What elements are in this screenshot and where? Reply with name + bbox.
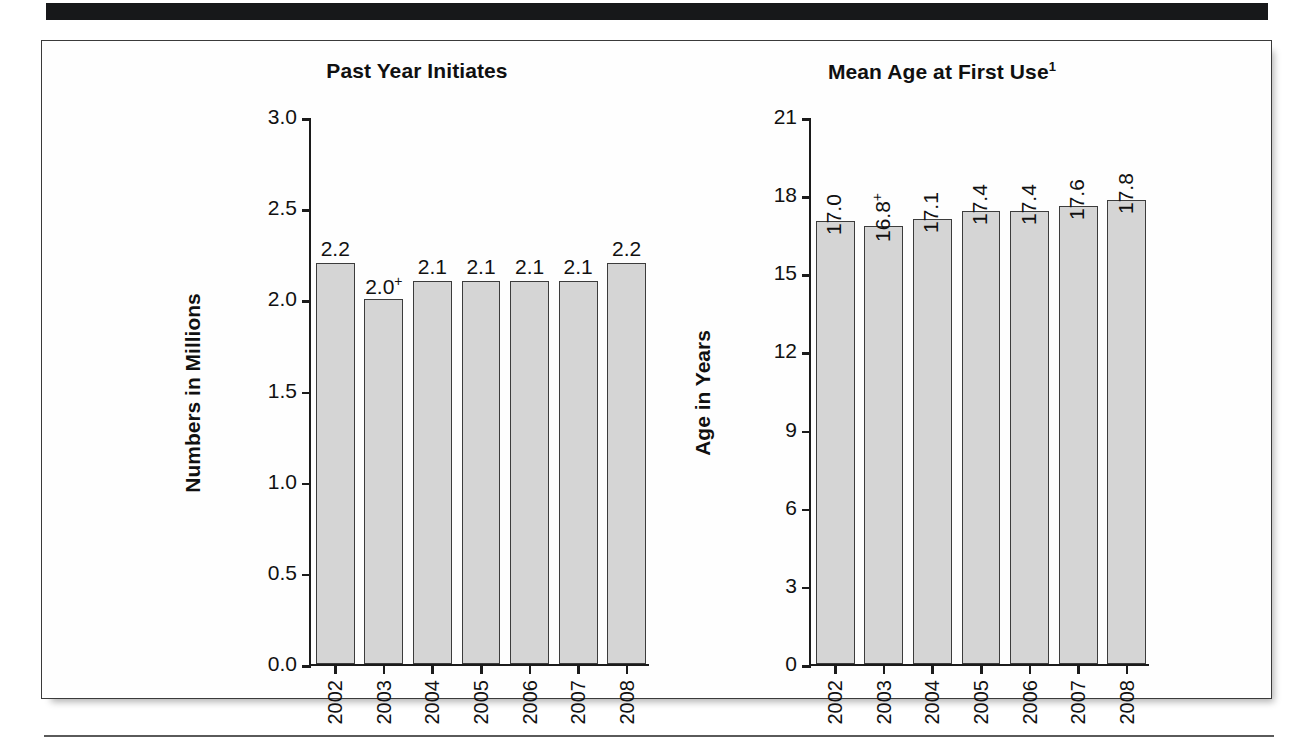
chart-title-left: Past Year Initiates [132, 59, 702, 83]
y-axis-tick-mark [802, 118, 811, 121]
y-axis-tick-mark [302, 118, 311, 121]
x-axis-tick-label: 2006 [518, 680, 541, 725]
y-axis-tick-label: 18 [774, 183, 797, 207]
y-axis-tick-mark [302, 300, 311, 303]
y-axis-tick-label: 3 [785, 574, 797, 598]
x-axis-tick-label: 2002 [824, 680, 847, 725]
bar-value-label: 17.0 [822, 194, 846, 235]
bar-value-label: 17.1 [919, 192, 943, 233]
y-axis-title-left: Numbers in Millions [181, 293, 205, 493]
x-axis-tick-mark [431, 664, 434, 674]
bar-value-label: 2.1 [457, 255, 506, 279]
x-axis-tick-mark [577, 664, 580, 674]
bar [462, 281, 501, 664]
bar-value-label: 2.1 [408, 255, 457, 279]
x-axis-tick-label: 2004 [921, 680, 944, 725]
x-axis-tick-mark [883, 664, 886, 674]
bar [864, 226, 903, 664]
bar [510, 281, 549, 664]
y-axis-tick-label: 15 [774, 261, 797, 285]
y-axis-tick-label: 6 [785, 496, 797, 520]
y-axis-tick-mark [802, 431, 811, 434]
x-axis-tick-label: 2003 [872, 680, 895, 725]
bar-value-label: 17.6 [1065, 179, 1089, 220]
x-axis-tick-label: 2005 [470, 680, 493, 725]
y-axis-tick-label: 1.0 [268, 470, 297, 494]
y-axis-tick-mark [802, 352, 811, 355]
plot-area-right: 21181512963017.0200216.8+200317.1200417.… [809, 119, 1149, 666]
chart-title-right-footnote-marker: 1 [1049, 59, 1056, 74]
bar [1010, 211, 1049, 664]
bar [913, 219, 952, 664]
chart-panel-past-year-initiates: Past Year Initiates Numbers in Millions … [132, 41, 702, 698]
y-axis-tick-label: 21 [774, 105, 797, 129]
y-axis-tick-label: 12 [774, 339, 797, 363]
y-axis-tick-mark [302, 574, 311, 577]
page-bottom-rule [44, 735, 1274, 737]
y-axis-tick-mark [802, 665, 811, 668]
bar [1059, 206, 1098, 664]
chart-title-right: Mean Age at First Use1 [642, 59, 1242, 84]
y-axis-tick-mark [302, 665, 311, 668]
y-axis-tick-label: 3.0 [268, 105, 297, 129]
x-axis-tick-mark [1126, 664, 1129, 674]
y-axis-tick-mark [302, 209, 311, 212]
x-axis-tick-mark [980, 664, 983, 674]
x-axis-tick-mark [529, 664, 532, 674]
x-axis-tick-mark [334, 664, 337, 674]
x-axis-tick-label: 2008 [1115, 680, 1138, 725]
bar [316, 263, 355, 664]
x-axis-tick-label: 2007 [567, 680, 590, 725]
bar-value-label: 2.1 [554, 255, 603, 279]
bar [559, 281, 598, 664]
x-axis-tick-label: 2004 [421, 680, 444, 725]
bar [1107, 200, 1146, 664]
x-axis-tick-mark [1077, 664, 1080, 674]
bar-value-label: 2.0+ [360, 273, 409, 299]
y-axis-tick-label: 0.0 [268, 652, 297, 676]
x-axis-tick-mark [931, 664, 934, 674]
y-axis-tick-label: 2.5 [268, 196, 297, 220]
bar-value-label: 16.8+ [869, 193, 895, 242]
bar [413, 281, 452, 664]
y-axis-tick-label: 1.5 [268, 379, 297, 403]
y-axis-tick-mark [302, 483, 311, 486]
bar [816, 221, 855, 664]
x-axis-tick-label: 2003 [372, 680, 395, 725]
bar-value-label: 17.4 [1017, 184, 1041, 225]
x-axis-tick-mark [480, 664, 483, 674]
y-axis-tick-mark [802, 509, 811, 512]
y-axis-tick-mark [302, 392, 311, 395]
y-axis-tick-mark [802, 587, 811, 590]
x-axis-tick-label: 2008 [615, 680, 638, 725]
bar [607, 263, 646, 664]
x-axis-tick-mark [1029, 664, 1032, 674]
figure-frame: Past Year Initiates Numbers in Millions … [41, 40, 1272, 699]
page-top-rule [46, 3, 1268, 20]
x-axis-tick-label: 2006 [1018, 680, 1041, 725]
y-axis-title-right: Age in Years [691, 330, 715, 456]
y-axis-tick-mark [802, 274, 811, 277]
y-axis-tick-label: 9 [785, 418, 797, 442]
y-axis-tick-label: 0 [785, 652, 797, 676]
bar-value-label: 17.4 [968, 184, 992, 225]
x-axis-tick-label: 2007 [1067, 680, 1090, 725]
y-axis-tick-label: 2.0 [268, 287, 297, 311]
x-axis-tick-label: 2005 [970, 680, 993, 725]
x-axis-tick-mark [626, 664, 629, 674]
bar-value-label: 2.2 [311, 237, 360, 261]
bar [364, 299, 403, 664]
chart-title-left-text: Past Year Initiates [326, 59, 507, 82]
bar [962, 211, 1001, 664]
x-axis-tick-mark [383, 664, 386, 674]
y-axis-tick-mark [802, 196, 811, 199]
x-axis-tick-label: 2002 [324, 680, 347, 725]
plot-area-left: 3.02.52.01.51.00.50.02.220022.0+20032.12… [309, 119, 649, 666]
x-axis-tick-mark [834, 664, 837, 674]
bar-value-label: 17.8 [1114, 173, 1138, 214]
chart-panel-mean-age-first-use: Mean Age at First Use1 Age in Years 2118… [642, 41, 1242, 698]
bar-value-label: 2.1 [505, 255, 554, 279]
y-axis-tick-label: 0.5 [268, 561, 297, 585]
chart-title-right-text: Mean Age at First Use [828, 60, 1049, 83]
